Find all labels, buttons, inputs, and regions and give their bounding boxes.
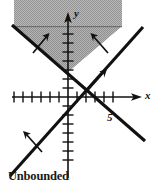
direction-arrow-right-of-origin: [88, 69, 107, 90]
figure-container: x y 5 Unbounded: [0, 0, 155, 187]
figure-caption: Unbounded: [8, 169, 69, 183]
x-axis-label: x: [144, 89, 151, 101]
x-intercept-label: 5: [107, 111, 113, 123]
coordinate-plane-graph: x y 5 Unbounded: [0, 0, 155, 187]
y-axis-label: y: [72, 7, 79, 19]
